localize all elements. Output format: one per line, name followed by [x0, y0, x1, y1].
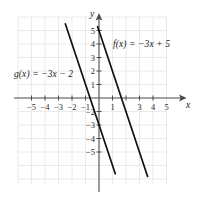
- y-tick-label: −5: [86, 147, 95, 157]
- y-tick-label: 3: [91, 53, 95, 63]
- y-tick-label: −3: [86, 120, 95, 130]
- x-tick-label: 4: [151, 102, 156, 112]
- x-tick-label: −2: [67, 102, 76, 112]
- y-axis-label: y: [89, 9, 95, 19]
- graph-figure: −5 −4 −3 −2 −1 1 3 4 5 5 4 3 2 1 −2 −3 −…: [0, 0, 197, 199]
- x-tick-label: 3: [137, 102, 141, 112]
- x-tick-label: −3: [54, 102, 63, 112]
- x-tick-label: 5: [164, 102, 168, 112]
- equation-label-f: f(x) = −3x + 5: [113, 40, 170, 50]
- coordinate-plane: −5 −4 −3 −2 −1 1 3 4 5 5 4 3 2 1 −2 −3 −…: [0, 0, 197, 199]
- y-tick-label: −4: [86, 134, 96, 144]
- x-axis-label: x: [185, 100, 191, 110]
- y-tick-label: 2: [91, 66, 95, 76]
- x-tick-labels: −5 −4 −3 −2 −1 1 3 4 5: [27, 102, 169, 112]
- x-tick-label: −4: [40, 102, 50, 112]
- x-tick-label: −5: [27, 102, 36, 112]
- y-tick-label: 5: [91, 26, 95, 36]
- x-tick-label: 1: [110, 102, 114, 112]
- y-tick-label: 1: [91, 80, 95, 90]
- equation-label-g: g(x) = −3x − 2: [14, 70, 73, 80]
